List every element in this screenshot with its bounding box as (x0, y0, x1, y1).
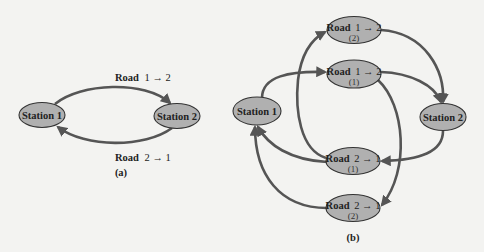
node-label: Station 2 (157, 111, 197, 122)
node-road-1-to-2-lane-2: Road 1 → 2 (2) (327, 17, 382, 44)
node-station-1: Station 1 (19, 103, 65, 128)
node-station-1: Station 1 (233, 97, 281, 125)
edge-road-2-to-1 (58, 127, 172, 143)
node-index: (2) (348, 211, 359, 221)
edge-s1-to-road12-1 (262, 72, 325, 98)
node-label: Station 1 (22, 110, 62, 121)
node-road-2-to-1-lane-2: Road 2 → 1 (2) (326, 195, 381, 222)
node-label: Station 1 (237, 106, 277, 117)
panel-a-label: (a) (115, 167, 128, 179)
node-road-2-to-1-lane-1: Road 2 → 1 (1) (326, 148, 381, 175)
node-index: (1) (348, 164, 359, 174)
panel-a: Station 1 Station 2 Road 1 → 2 Road 2 → … (19, 72, 200, 179)
edge-road12-1-to-road21-2 (378, 80, 401, 205)
edge-road21-1-to-road12-2 (297, 32, 326, 158)
panel-b: Station 1 Station 2 Road 1 → 2 (2) Road … (233, 17, 466, 245)
edge-road-1-to-2 (55, 87, 170, 104)
edge-label-road-1-to-2: Road 1 → 2 (115, 72, 171, 83)
edge-road21-1-to-s1 (258, 127, 327, 162)
node-label: Station 2 (423, 112, 463, 123)
node-road-1-to-2-lane-1: Road 1 → 2 (1) (327, 60, 382, 88)
panel-b-label: (b) (347, 232, 360, 244)
edge-s2-to-road21-1 (382, 131, 443, 161)
node-index: (2) (349, 33, 360, 43)
node-index: (1) (349, 77, 360, 87)
node-station-2: Station 2 (420, 104, 466, 131)
edge-label-road-2-to-1: Road 2 → 1 (115, 152, 171, 163)
node-station-2: Station 2 (154, 104, 200, 129)
diagram-canvas: Station 1 Station 2 Road 1 → 2 Road 2 → … (0, 0, 484, 252)
